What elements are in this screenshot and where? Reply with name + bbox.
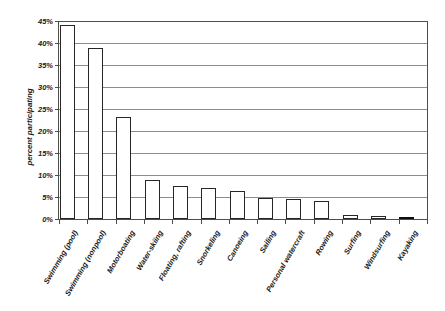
y-tick-mark (55, 65, 59, 66)
gridline (59, 21, 427, 22)
y-tick-label: 25% (38, 105, 53, 114)
y-tick-mark (55, 109, 59, 110)
y-tick-label: 20% (38, 127, 53, 136)
y-tick-label: 0% (42, 215, 53, 224)
y-tick-label: 40% (38, 39, 53, 48)
bar (343, 215, 358, 219)
x-tick-mark (59, 219, 60, 224)
y-tick-mark (55, 87, 59, 88)
bar-chart-figure: percent participating 0%5%10%15%20%25%30… (0, 0, 445, 311)
bar (371, 216, 386, 219)
bar (60, 25, 75, 219)
gridline (59, 153, 427, 154)
y-tick-label: 35% (38, 61, 53, 70)
y-tick-label: 5% (42, 193, 53, 202)
x-axis-label-text: Surfing (342, 227, 364, 256)
x-axis-label-text: Water-skiing (135, 227, 166, 272)
y-tick-mark (55, 153, 59, 154)
x-tick-mark (201, 219, 202, 224)
x-axis-label-text: Rowing (313, 227, 335, 257)
y-tick-mark (55, 43, 59, 44)
y-tick-label: 10% (38, 171, 53, 180)
y-tick-mark (55, 175, 59, 176)
x-axis-label-text: Sailing (258, 227, 279, 255)
x-axis-label-text: Canoeing (225, 227, 251, 263)
gridline (59, 65, 427, 66)
y-tick-label: 30% (38, 83, 53, 92)
plot-area: 0%5%10%15%20%25%30%35%40%45% (58, 21, 427, 220)
x-tick-mark (116, 219, 117, 224)
gridline (59, 175, 427, 176)
x-axis-label-text: Motorboating (105, 227, 138, 275)
y-tick-label: 15% (38, 149, 53, 158)
y-tick-label: 45% (38, 17, 53, 26)
x-tick-mark (285, 219, 286, 224)
y-axis-title: percent participating (25, 27, 39, 227)
gridline (59, 43, 427, 44)
y-tick-mark (55, 21, 59, 22)
x-axis-label-text: Windsurfing (362, 227, 393, 271)
y-tick-mark (55, 131, 59, 132)
gridline (59, 87, 427, 88)
plot-right-frame (427, 21, 428, 219)
x-axis-label-text: Snorkeling (194, 227, 222, 267)
gridline (59, 109, 427, 110)
bar (399, 217, 414, 219)
gridline (59, 131, 427, 132)
x-axis-label-text: Kayaking (395, 227, 420, 262)
y-tick-mark (55, 197, 59, 198)
